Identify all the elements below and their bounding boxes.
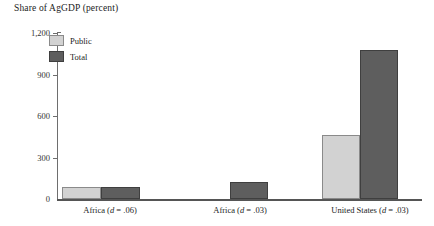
legend-label-total: Total <box>70 52 87 62</box>
y-axis-label: 1,200 <box>0 28 50 38</box>
agdp-bar-chart: Share of AgGDP (percent) 03006009001,200… <box>0 0 434 226</box>
y-axis-tick <box>53 116 58 117</box>
legend-label-public: Public <box>70 36 92 46</box>
y-axis-label: 0 <box>0 194 50 204</box>
y-axis-label: 600 <box>0 111 50 121</box>
legend-swatch-total-icon <box>49 51 64 62</box>
bar-total <box>230 182 268 199</box>
chart-title: Share of AgGDP (percent) <box>14 3 118 13</box>
bar-total <box>101 187 140 199</box>
y-axis-tick <box>53 158 58 159</box>
bar-total <box>360 50 398 199</box>
legend-swatch-public-icon <box>49 35 64 46</box>
y-axis-tick <box>53 75 58 76</box>
x-axis-category-label: United States (d = .03) <box>331 205 408 215</box>
x-axis-category-label: Africa (d = .03) <box>213 205 266 215</box>
x-axis-baseline <box>57 199 422 201</box>
bar-public <box>62 187 101 199</box>
chart-legend: Public Total <box>49 33 145 65</box>
y-axis-label: 300 <box>0 153 50 163</box>
x-axis-category-label: Africa (d = .06) <box>83 205 136 215</box>
legend-item-public: Public <box>49 33 145 48</box>
legend-item-total: Total <box>49 49 145 64</box>
bar-public <box>322 135 360 199</box>
y-axis-label: 900 <box>0 70 50 80</box>
